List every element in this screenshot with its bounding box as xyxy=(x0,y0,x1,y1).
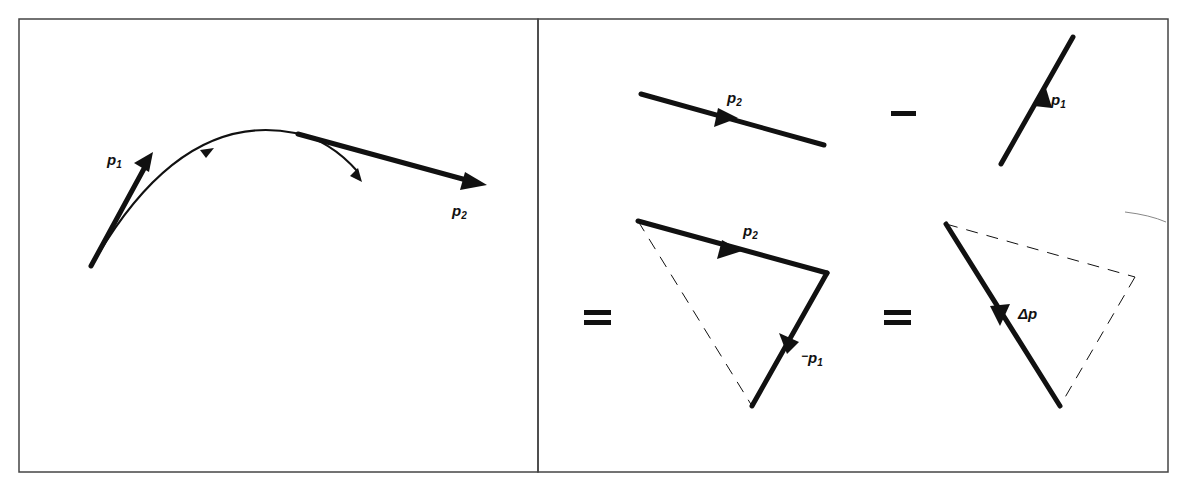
trajectory-arrow-icon xyxy=(200,148,214,158)
right-panel: p2 p1 p2 −p1 Δp xyxy=(584,37,1166,406)
edge-artifact-arc xyxy=(1125,212,1166,222)
triangle-p2-label: p2 xyxy=(742,222,758,241)
delta-p-label: Δp xyxy=(1017,305,1037,322)
top-p1-label: p1 xyxy=(1050,91,1066,110)
top-p2-label: p2 xyxy=(726,89,742,108)
trajectory-curve xyxy=(92,130,358,265)
p1-label: p1 xyxy=(106,151,122,170)
left-panel: p1 p2 xyxy=(91,130,487,266)
minus-operator xyxy=(891,111,916,116)
equals-sign-2-bottom xyxy=(884,320,911,325)
equals-sign-1-bottom xyxy=(584,320,611,325)
p2-label: p2 xyxy=(451,202,467,221)
p2-vector xyxy=(298,134,470,181)
equals-sign-2-top xyxy=(884,310,911,315)
top-p2-arrowhead-icon xyxy=(714,108,738,127)
p2-arrowhead-icon xyxy=(460,172,487,190)
left-panel-frame xyxy=(19,19,538,472)
triangle-2-dashed-side xyxy=(1060,277,1135,406)
equals-sign-1-top xyxy=(584,310,611,315)
curve-end-arrow-icon xyxy=(350,168,362,182)
right-panel-frame xyxy=(538,19,1168,472)
p1-vector xyxy=(91,165,146,266)
momentum-change-figure: p1 p2 p2 p1 p2 −p1 xyxy=(0,0,1182,487)
diagram-canvas: p1 p2 p2 p1 p2 −p1 xyxy=(0,0,1182,487)
neg-p1-label: −p1 xyxy=(801,349,823,368)
